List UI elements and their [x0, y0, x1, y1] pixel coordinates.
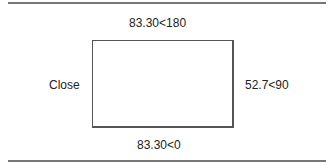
bottom-divider [8, 160, 326, 162]
left-label: Close [49, 78, 80, 92]
rectangle-shape [92, 40, 234, 128]
right-dimension-label: 52.7<90 [245, 78, 289, 92]
top-divider [8, 2, 326, 4]
top-dimension-label: 83.30<180 [129, 16, 186, 30]
bottom-dimension-label: 83.30<0 [137, 138, 181, 152]
